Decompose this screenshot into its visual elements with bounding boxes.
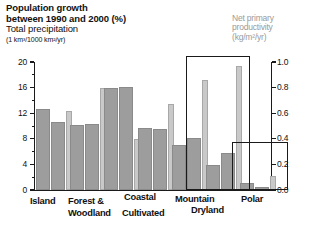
category-label: Forest & (68, 196, 104, 206)
title-line-3: Total precipitation (6, 24, 186, 35)
y-axis-right-tick (272, 61, 276, 62)
title-line-4: (1 km³/1000 km²/yr) (6, 35, 186, 45)
category-label: Coastal (124, 192, 156, 202)
secondary-axis-title: Net primary productivity (kg/m²/yr) (232, 14, 310, 42)
chart-title-block: Population growth between 1990 and 2000 … (6, 3, 186, 45)
highlight-box-polar (232, 142, 288, 190)
y-axis-left-tick-label: 0 (5, 185, 27, 195)
y-axis-left-tick-label: 12 (5, 108, 27, 118)
secondary-axis-title-line-3: (kg/m²/yr) (232, 33, 310, 42)
y-axis-left-tick-label: 4 (5, 159, 27, 169)
y-axis-right-tick-label: 0.8 (277, 82, 301, 92)
bar (51, 122, 66, 190)
bar (85, 124, 100, 190)
category-label: Cultivated (122, 208, 164, 218)
category-label: Island (30, 196, 55, 206)
y-axis-left-tick-label: 8 (5, 133, 27, 143)
category-label: Polar (240, 194, 264, 204)
category-label: Dryland (190, 205, 225, 215)
chart-root: Population growth between 1990 and 2000 … (0, 0, 315, 237)
category-label: Mountain (175, 194, 214, 204)
y-axis-right-tick (272, 138, 276, 139)
bar (153, 129, 168, 190)
bar (172, 145, 187, 190)
title-line-1: Population growth (6, 3, 186, 14)
y-axis-left-tick-label: 20 (5, 57, 27, 67)
y-axis-right-tick-label: 1.0 (277, 57, 301, 67)
bar (70, 125, 85, 190)
y-axis-left-tick-label: 16 (5, 82, 27, 92)
y-axis-right-tick-label: 0.6 (277, 108, 301, 118)
y-axis-right-tick (272, 113, 276, 114)
bar (138, 128, 153, 190)
category-label: Woodland (68, 208, 111, 218)
y-axis-right-tick (272, 87, 276, 88)
bar (36, 109, 51, 190)
bar (119, 87, 134, 190)
bar (104, 88, 119, 190)
